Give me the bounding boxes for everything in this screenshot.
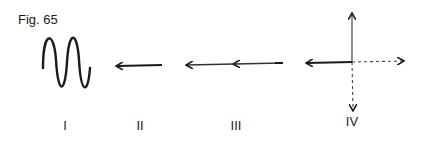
arrow-right-dashed-iv (352, 61, 403, 62)
panel-label-ii: II (136, 118, 143, 133)
arrow-left-iv (307, 62, 352, 63)
panel-label-iii: III (231, 118, 242, 133)
arrow-down-dashed-iv (352, 62, 353, 110)
arrow-left-iii-b (187, 64, 234, 65)
panel-label-iv: IV (346, 114, 358, 129)
arrow-left-iii-a (234, 63, 282, 64)
arrow-left-ii (117, 65, 162, 66)
panel-label-i: I (63, 118, 67, 133)
sine-wave (43, 38, 90, 88)
